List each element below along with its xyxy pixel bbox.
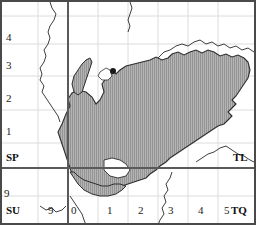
- easting-label-2: 2: [138, 205, 144, 216]
- grid-square-label-tq: TQ: [231, 205, 247, 216]
- northing-label-4: 4: [6, 32, 12, 43]
- northing-label-1: 1: [6, 126, 12, 137]
- easting-label-0: 0: [71, 205, 77, 216]
- northing-label-2: 2: [6, 93, 12, 104]
- city-point-marker: [110, 68, 116, 74]
- grid-map: SP TL SU TQ 4 3 2 1 9 9 0 1 2 3 4 5: [0, 0, 256, 225]
- easting-label-1: 1: [107, 205, 113, 216]
- grid-square-label-tl: TL: [233, 152, 248, 163]
- grid-square-label-su: SU: [6, 205, 20, 216]
- easting-label-3: 3: [168, 205, 174, 216]
- grid-square-label-sp: SP: [6, 152, 19, 163]
- easting-label-4: 4: [198, 205, 204, 216]
- easting-label-5: 5: [224, 205, 230, 216]
- northing-label-9: 9: [4, 188, 10, 199]
- northing-label-3: 3: [6, 60, 12, 71]
- easting-label-9: 9: [48, 205, 54, 216]
- map-canvas: [0, 0, 256, 225]
